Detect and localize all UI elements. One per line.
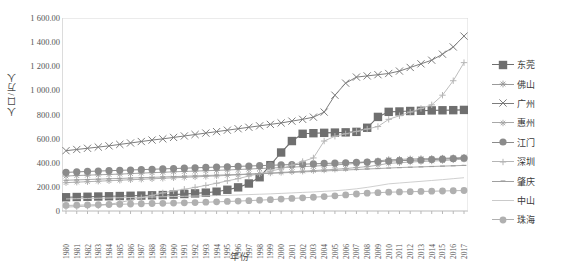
data-point-marker — [213, 173, 219, 179]
data-point-marker — [385, 108, 393, 116]
data-point-marker — [202, 199, 209, 206]
data-point-marker — [245, 162, 252, 169]
x-axis-tick-label: 2004 — [320, 244, 329, 259]
legend-item-深圳[interactable]: 深圳 — [492, 152, 560, 171]
x-axis-tick-label: 1992 — [191, 244, 200, 259]
legend-item-中山[interactable]: 中山 — [492, 191, 560, 210]
data-point-marker — [321, 108, 328, 115]
data-point-marker — [499, 60, 507, 68]
data-point-marker — [342, 159, 349, 166]
x-axis-tick-label: 1987 — [137, 244, 146, 259]
data-point-marker — [321, 160, 328, 167]
data-point-marker — [245, 197, 252, 204]
legend-item-佛山[interactable]: 佛山 — [492, 74, 560, 93]
data-point-marker — [386, 116, 392, 122]
data-point-marker — [170, 165, 177, 172]
data-point-marker — [450, 78, 456, 84]
x-axis-tick-label: 2016 — [449, 244, 458, 259]
data-point-marker — [428, 57, 435, 64]
x-axis-tick-label: 2002 — [299, 244, 308, 259]
x-axis-title: 年份 — [230, 250, 250, 263]
data-point-marker — [160, 175, 166, 181]
legend-item-珠海[interactable]: 珠海 — [492, 210, 560, 229]
data-point-marker — [256, 197, 263, 204]
legend-swatch-icon — [492, 176, 514, 186]
legend-item-东莞[interactable]: 东莞 — [492, 55, 560, 74]
data-point-marker — [149, 176, 155, 182]
y-axis-tick-label: 600.00 — [37, 134, 60, 144]
data-point-marker — [374, 113, 382, 121]
y-axis-tick-label: 0 — [56, 206, 60, 216]
data-point-marker — [396, 67, 403, 74]
legend-swatch-icon — [492, 98, 514, 108]
x-axis-tick-label: 1980 — [62, 244, 71, 259]
data-point-marker — [138, 176, 144, 182]
data-point-marker — [460, 155, 467, 162]
y-axis-tick-label: 800.00 — [37, 110, 60, 120]
legend-item-广州[interactable]: 广州 — [492, 94, 560, 113]
data-point-marker — [73, 193, 81, 201]
data-point-marker — [428, 156, 435, 163]
legend-item-惠州[interactable]: 惠州 — [492, 113, 560, 132]
legend-item-江门[interactable]: 江门 — [492, 133, 560, 152]
data-point-marker — [116, 167, 123, 174]
data-point-marker — [192, 174, 198, 180]
data-point-marker — [342, 192, 349, 199]
legend-marker-icon — [492, 79, 514, 89]
data-point-marker — [224, 163, 231, 170]
x-axis-tick-label: 1983 — [94, 244, 103, 259]
data-point-marker — [439, 156, 446, 163]
data-point-marker — [63, 202, 70, 209]
data-point-marker — [321, 193, 328, 200]
series-line — [66, 110, 464, 197]
data-point-marker — [213, 163, 220, 170]
y-axis-tick-label: 200.00 — [37, 182, 60, 192]
data-point-marker — [224, 198, 231, 205]
data-point-marker — [331, 92, 338, 99]
data-point-marker — [212, 188, 220, 196]
plot-svg — [62, 18, 468, 217]
data-point-marker — [331, 160, 338, 167]
data-point-marker — [192, 199, 199, 206]
data-point-marker — [181, 199, 188, 206]
legend-marker-icon — [492, 118, 514, 128]
y-axis-tick-label: 1 000.00 — [30, 85, 60, 95]
data-point-marker — [203, 173, 209, 179]
data-point-marker — [267, 196, 274, 203]
data-point-marker — [310, 194, 317, 201]
data-point-marker — [385, 189, 392, 196]
series-line — [66, 36, 464, 151]
legend-item-肇庆[interactable]: 肇庆 — [492, 171, 560, 190]
data-point-marker — [116, 201, 123, 208]
y-axis-tick-label: 1 200.00 — [30, 61, 60, 71]
x-axis-tick-label: 1982 — [84, 244, 93, 259]
data-point-marker — [116, 192, 124, 200]
data-point-marker — [375, 123, 381, 129]
data-point-marker — [106, 201, 113, 208]
legend-swatch-icon — [492, 118, 514, 128]
series-line — [66, 158, 464, 172]
data-point-marker — [396, 189, 403, 196]
series-佛山 — [63, 154, 468, 179]
data-point-marker — [417, 60, 424, 67]
x-axis-tick-label: 1991 — [180, 244, 189, 259]
plot-area — [62, 18, 468, 211]
x-axis-tick-label: 2014 — [428, 244, 437, 259]
x-axis-tick-label: 2015 — [438, 244, 447, 259]
data-point-marker — [148, 166, 155, 173]
x-axis-tick-labels: 1980198119821983198419851986198719881989… — [62, 213, 468, 259]
legend-marker-icon — [492, 137, 514, 147]
data-point-marker — [277, 148, 285, 156]
data-point-marker — [396, 157, 403, 164]
data-point-marker — [321, 138, 327, 144]
data-point-marker — [438, 106, 446, 114]
x-axis-tick-label: 1990 — [170, 244, 179, 259]
data-point-marker — [439, 188, 446, 195]
data-point-marker — [374, 158, 381, 165]
x-axis-tick-label: 1999 — [266, 244, 275, 259]
x-axis-tick-label: 2010 — [385, 244, 394, 259]
x-axis-tick-label: 1989 — [159, 244, 168, 259]
data-point-marker — [94, 192, 102, 200]
data-point-marker — [320, 129, 328, 137]
data-point-marker — [170, 175, 176, 181]
